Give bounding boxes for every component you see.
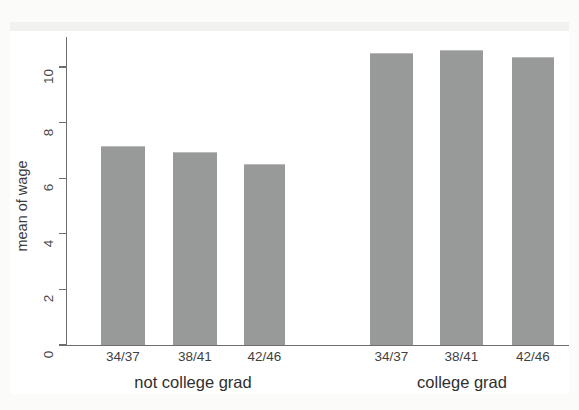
y-tick [59,344,66,345]
bar [101,146,145,345]
bar-chart: mean of wage 0246810 34/3738/4142/4634/3… [0,0,579,410]
bar-category-label: 34/37 [362,349,422,364]
y-axis-line [66,37,67,345]
y-tick-label: 6 [41,177,56,199]
y-tick-label: 0 [41,344,56,366]
bar-category-label: 34/37 [93,349,153,364]
group-label: not college grad [83,373,303,392]
y-tick-label: 10 [41,66,56,88]
bar [173,152,217,345]
y-tick [59,122,66,123]
y-tick [59,66,66,67]
bar [512,57,554,345]
bar [440,50,483,345]
bar [244,164,285,345]
bar-category-label: 38/41 [432,349,492,364]
bar-category-label: 42/46 [235,349,295,364]
y-tick-label: 4 [41,232,56,254]
bar-category-label: 38/41 [165,349,225,364]
y-tick-label: 8 [41,121,56,143]
bar [370,53,413,345]
y-axis-title: mean of wage [14,160,30,251]
y-tick-label: 2 [41,288,56,310]
group-label: college grad [352,373,572,392]
bar-category-label: 42/46 [503,349,563,364]
y-tick [59,289,66,290]
y-tick [59,233,66,234]
y-tick [59,178,66,179]
